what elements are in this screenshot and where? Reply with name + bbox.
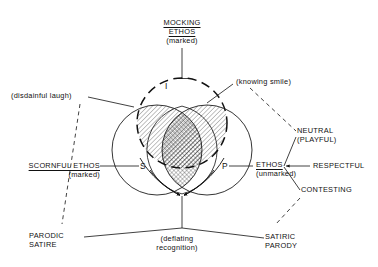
label-disdainful-laugh: (disdainful laugh)	[11, 91, 72, 100]
scornful-marked-qualifier: (marked)	[29, 170, 100, 179]
scornful-ethos-text: SCORNFUL ETHOS	[29, 161, 100, 170]
leader-disdainful-laugh	[88, 97, 134, 107]
label-parodic-satire: PARODIC SATIRE	[29, 231, 64, 249]
label-deflating-recognition: (deflating recognition)	[156, 234, 198, 252]
set-letter-s: S	[140, 161, 146, 171]
label-respectful: RESPECTFUL	[313, 161, 364, 170]
page-title-mocking-ethos: MOCKING ETHOS (marked)	[163, 18, 200, 46]
set-letter-i: I	[165, 81, 167, 91]
label-scornful-ethos: SCORNFUL ETHOS (marked)	[29, 161, 100, 179]
mocking-label: MOCKING	[163, 18, 200, 27]
leader-dashed-satiric-branch	[276, 198, 300, 224]
leader-dashed-neutral-branch	[250, 88, 296, 131]
ethos-unmarked-text: ETHOS	[256, 160, 296, 169]
label-ethos-unmarked: ETHOS (unmarked)	[256, 160, 296, 178]
ethos-marked-label: ETHOS	[163, 27, 200, 36]
unmarked-qualifier: (unmarked)	[256, 169, 296, 178]
leader-knowing-smile	[207, 84, 233, 103]
set-letter-p: P	[222, 161, 228, 171]
venn-diagram-figure: MOCKING ETHOS (marked) I S P (disdainful…	[0, 0, 378, 267]
label-neutral-playful: NEUTRAL (PLAYFUL)	[297, 126, 336, 144]
label-contesting: CONTESTING	[301, 185, 352, 194]
label-knowing-smile: (knowing smile)	[236, 77, 291, 86]
marked-qualifier-top: (marked)	[163, 36, 200, 45]
label-satiric-parody: SATIRIC PARODY	[265, 232, 297, 250]
